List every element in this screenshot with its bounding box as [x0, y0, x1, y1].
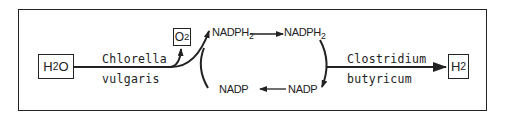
curve-nadp-return [201, 48, 208, 88]
nadph2-left: NADPH2 [212, 26, 254, 38]
nadph2-right-sub: 2 [321, 31, 326, 41]
nadph2-left-base: NADPH [212, 26, 249, 38]
h2o-base: H [43, 59, 52, 74]
arrow-to-o2 [170, 49, 181, 67]
o2-box: O2 [173, 28, 191, 46]
nadp-left: NADP [219, 83, 248, 95]
curve-nadph2-to-nadp [320, 40, 327, 87]
nadp-right: NADP [288, 83, 317, 95]
nadph2-right-base: NADPH [284, 26, 321, 38]
vulgaris-label: vulgaris [102, 72, 160, 86]
h2o-box: H2O [38, 54, 74, 79]
h2o-tail: O [59, 59, 69, 74]
pathway-diagram: H2O O2 H2 Chlorella vulgaris Clostridium… [0, 0, 505, 116]
chlorella-label: Chlorella [102, 52, 167, 66]
butyricum-label: butyricum [347, 72, 412, 86]
o2-base: O [175, 30, 184, 44]
nadph2-right: NADPH2 [284, 26, 326, 38]
h2-base: H [451, 59, 460, 74]
nadph2-left-sub: 2 [249, 31, 254, 41]
h2-box: H2 [448, 54, 469, 79]
arrows-layer [0, 0, 505, 116]
clostridium-label: Clostridium [347, 52, 426, 66]
